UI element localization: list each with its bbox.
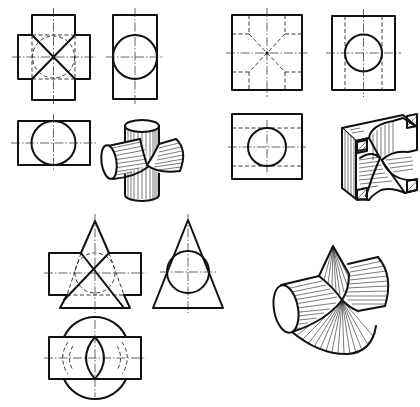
cone-cyl-side-view bbox=[153, 214, 223, 313]
cone-cyl-front-view bbox=[44, 214, 146, 313]
cyl-cyl-side-view bbox=[106, 8, 163, 106]
block-front-view bbox=[226, 8, 308, 97]
cyl-cyl-top-view bbox=[11, 114, 97, 172]
cone-cyl-top-view bbox=[44, 317, 146, 399]
cyl-cyl-isometric-view bbox=[99, 120, 183, 201]
block-top-view bbox=[228, 114, 306, 179]
cone-cyl-isometric-view bbox=[270, 246, 388, 354]
cyl-cyl-front-view bbox=[12, 8, 96, 106]
technical-drawing-sheet bbox=[0, 0, 420, 407]
block-isometric-view bbox=[342, 114, 417, 200]
block-side-view bbox=[326, 9, 401, 97]
